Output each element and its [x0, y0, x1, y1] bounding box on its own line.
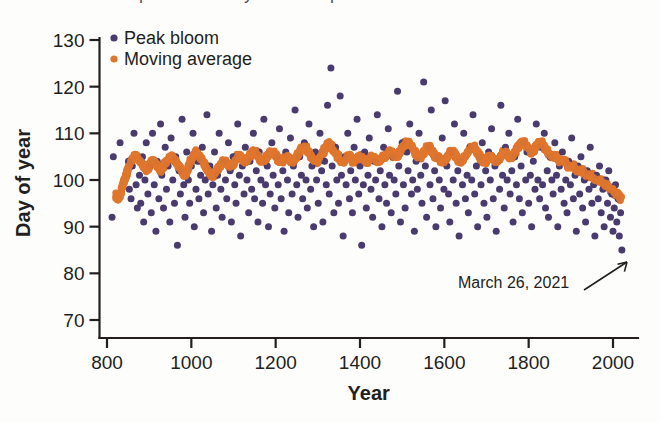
data-point — [372, 177, 379, 184]
data-point — [501, 205, 508, 212]
data-point — [542, 205, 549, 212]
data-point — [428, 107, 435, 114]
data-point — [573, 228, 580, 235]
data-point — [330, 209, 337, 216]
data-point — [480, 200, 487, 207]
data-point — [558, 186, 565, 193]
data-point — [605, 167, 612, 174]
data-point — [260, 116, 267, 123]
data-point — [199, 144, 206, 151]
data-point — [289, 191, 296, 198]
data-point — [177, 191, 184, 198]
data-point — [237, 233, 244, 240]
data-point — [163, 186, 170, 193]
plot-area — [109, 65, 626, 254]
data-point — [285, 209, 292, 216]
data-point — [279, 167, 286, 174]
data-point — [284, 177, 291, 184]
data-point — [278, 195, 285, 202]
data-point — [281, 228, 288, 235]
data-point — [169, 177, 176, 184]
data-point — [400, 181, 407, 188]
data-point — [411, 228, 418, 235]
data-point — [137, 200, 144, 207]
data-point — [533, 121, 540, 128]
data-point — [293, 181, 300, 188]
data-point — [564, 209, 571, 216]
data-point — [323, 181, 330, 188]
data-point — [191, 223, 198, 230]
data-point — [344, 130, 351, 137]
data-point — [126, 186, 133, 193]
data-point — [236, 172, 243, 179]
data-point — [561, 200, 568, 207]
data-point — [160, 205, 167, 212]
data-point — [616, 233, 623, 240]
data-point — [427, 181, 434, 188]
data-point — [610, 228, 617, 235]
data-point — [381, 181, 388, 188]
data-point — [617, 209, 624, 216]
data-point — [140, 219, 147, 226]
data-point — [351, 144, 358, 151]
data-point — [248, 186, 255, 193]
data-point — [148, 209, 155, 216]
legend-label: Peak bloom — [124, 28, 219, 48]
data-point — [231, 181, 238, 188]
data-point — [319, 219, 326, 226]
data-point — [541, 130, 548, 137]
data-point — [157, 121, 164, 128]
data-point — [436, 177, 443, 184]
data-point — [375, 195, 382, 202]
data-point — [363, 205, 370, 212]
data-point — [152, 228, 159, 235]
y-tick-label: 110 — [54, 123, 84, 144]
data-point — [343, 181, 350, 188]
data-point — [513, 181, 520, 188]
data-point — [474, 223, 481, 230]
data-point — [418, 200, 425, 207]
data-point — [596, 163, 603, 170]
data-point — [507, 191, 514, 198]
data-point — [241, 191, 248, 198]
data-point — [366, 135, 373, 142]
data-point — [192, 186, 199, 193]
data-point — [141, 177, 148, 184]
data-point — [233, 200, 240, 207]
data-point — [303, 177, 310, 184]
data-point — [510, 219, 517, 226]
data-point — [183, 149, 190, 156]
data-point — [347, 167, 354, 174]
data-point — [409, 177, 416, 184]
data-point — [349, 209, 356, 216]
data-point — [383, 200, 390, 207]
x-axis-title: Year — [348, 382, 390, 404]
data-point — [568, 135, 575, 142]
data-point — [335, 200, 342, 207]
data-point — [223, 195, 230, 202]
data-point — [186, 200, 193, 207]
data-point — [579, 205, 586, 212]
data-point — [508, 167, 515, 174]
data-point — [130, 130, 137, 137]
data-point — [416, 130, 423, 137]
x-tick-label: 1400 — [339, 352, 381, 373]
data-point — [144, 191, 151, 198]
data-point — [216, 130, 223, 137]
data-point — [402, 205, 409, 212]
data-point — [519, 209, 526, 216]
data-point — [143, 139, 150, 146]
data-point — [109, 214, 116, 221]
data-point — [265, 223, 272, 230]
data-point — [217, 186, 224, 193]
x-tick-label: 1600 — [423, 352, 465, 373]
data-point — [493, 228, 500, 235]
x-tick-label: 2000 — [592, 352, 634, 373]
data-point — [195, 195, 202, 202]
data-point — [465, 209, 472, 216]
data-point — [453, 200, 460, 207]
data-point — [423, 214, 430, 221]
data-point — [559, 149, 566, 156]
legend-label: Moving average — [124, 49, 252, 69]
data-point — [429, 195, 436, 202]
